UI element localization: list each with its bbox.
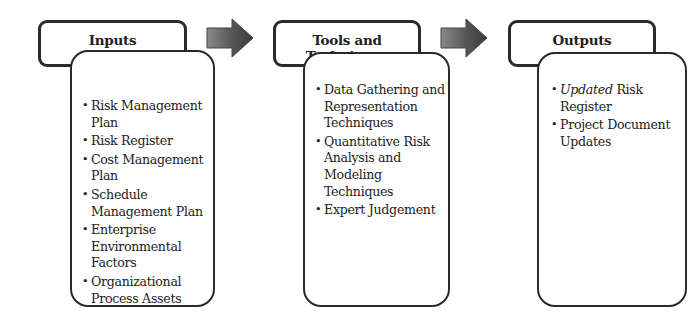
list-item: Enterprise Environmental Factors (82, 222, 212, 272)
list-item: Organizational Process Assets (82, 274, 212, 307)
list-item: Expert Judgement (315, 202, 449, 219)
inputs-title: Inputs (41, 32, 184, 48)
list-item: Cost Management Plan (82, 152, 212, 185)
list-item: Quantitative Risk Analysis and Modeling … (315, 134, 449, 200)
list-item: Risk Register (82, 133, 212, 150)
right-arrow-icon (206, 18, 254, 58)
outputs-title: Outputs (511, 32, 653, 48)
tools-list: Data Gathering and Representation Techni… (315, 82, 449, 221)
tools-box: Data Gathering and Representation Techni… (303, 52, 450, 307)
inputs-list: Risk Management Plan Risk Register Cost … (82, 98, 212, 309)
list-item: Risk Management Plan (82, 98, 212, 131)
list-item: Updated Risk Register (551, 82, 685, 115)
right-arrow-icon (440, 18, 488, 58)
outputs-list: Updated Risk Register Project Document U… (551, 82, 685, 152)
updated-italic: Updated (560, 82, 613, 97)
list-item: Data Gathering and Representation Techni… (315, 82, 449, 132)
inputs-box: Risk Management Plan Risk Register Cost … (70, 50, 215, 307)
outputs-box: Updated Risk Register Project Document U… (537, 52, 687, 307)
list-item: Schedule Management Plan (82, 187, 212, 220)
list-item: Project Document Updates (551, 117, 685, 150)
